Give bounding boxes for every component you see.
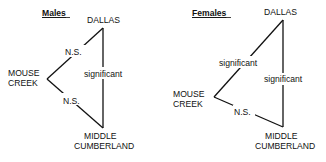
males-node-middle-cumberland-line1: MIDDLE xyxy=(84,131,117,141)
males-panel: Males N.S. N.S. significant DALLAS MOUSE… xyxy=(8,8,134,151)
males-node-mouse-creek-line2: CREEK xyxy=(8,78,38,88)
males-edge-label-dallas-middlecumberland: significant xyxy=(84,69,123,79)
comparison-diagrams: Males N.S. N.S. significant DALLAS MOUSE… xyxy=(0,0,326,162)
females-title: Females xyxy=(192,8,227,18)
females-edge-label-dallas-middlecumberland: significant xyxy=(264,74,303,84)
females-node-mouse-creek-line2: CREEK xyxy=(173,99,203,109)
females-node-middle-cumberland-line2: CUMBERLAND xyxy=(255,141,315,151)
females-node-dallas: DALLAS xyxy=(264,7,297,17)
females-node-mouse-creek-line1: MOUSE xyxy=(173,89,205,99)
males-node-mouse-creek-line1: MOUSE xyxy=(8,68,40,78)
males-node-middle-cumberland-line2: CUMBERLAND xyxy=(74,141,134,151)
males-edge-label-dallas-mousecreek: N.S. xyxy=(65,47,82,57)
females-edge-label-mousecreek-middlecumberland: N.S. xyxy=(234,107,251,117)
males-title: Males xyxy=(42,8,66,18)
females-edge-label-dallas-mousecreek: significant xyxy=(219,58,258,68)
females-node-middle-cumberland-line1: MIDDLE xyxy=(265,131,298,141)
males-edge-label-mousecreek-middlecumberland: N.S. xyxy=(63,96,80,106)
males-node-dallas: DALLAS xyxy=(87,15,120,25)
females-panel: Females significant N.S. significant DAL… xyxy=(173,7,315,151)
